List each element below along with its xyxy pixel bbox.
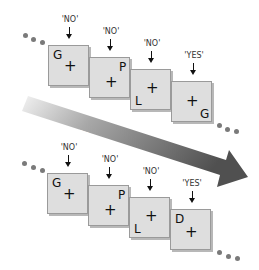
ellipsis-dot bbox=[31, 37, 36, 42]
stimulus-frame: G + bbox=[48, 45, 89, 86]
down-arrow-icon bbox=[192, 191, 193, 199]
response-label: 'NO' bbox=[143, 167, 160, 176]
ellipsis-dot bbox=[40, 40, 45, 45]
fixation-cross: + bbox=[185, 225, 198, 240]
response-label: 'NO' bbox=[103, 27, 120, 36]
stimulus-frame: P + bbox=[88, 185, 129, 226]
stimulus-frame: G + bbox=[47, 173, 88, 214]
stimulus-letter: G bbox=[200, 108, 209, 120]
ellipsis-dot bbox=[40, 168, 45, 173]
down-arrow-icon bbox=[109, 167, 110, 175]
fixation-cross: + bbox=[104, 203, 117, 218]
ellipsis-dot bbox=[31, 165, 36, 170]
stimulus-letter: P bbox=[119, 61, 126, 73]
ellipsis-dot bbox=[23, 33, 28, 38]
stimulus-letter: D bbox=[175, 213, 184, 225]
stimulus-frame: G + bbox=[171, 81, 212, 122]
down-arrow-icon bbox=[69, 27, 70, 35]
ellipsis-dot bbox=[217, 250, 222, 255]
fixation-cross: + bbox=[186, 94, 199, 109]
stimulus-letter: G bbox=[53, 49, 62, 61]
fixation-cross: + bbox=[105, 75, 118, 90]
response-label: 'NO' bbox=[61, 143, 78, 152]
down-arrow-icon bbox=[151, 51, 152, 59]
response-label: 'YES' bbox=[182, 179, 201, 188]
diagram-stage: Time 'NO' G + 'NO' P + 'NO' L + 'YES' G … bbox=[0, 0, 259, 270]
stimulus-letter: P bbox=[118, 189, 125, 201]
down-arrow-icon bbox=[68, 155, 69, 163]
response-label: 'YES' bbox=[184, 51, 203, 60]
response-label: 'NO' bbox=[102, 155, 119, 164]
ellipsis-dot bbox=[225, 127, 230, 132]
ellipsis-dot bbox=[226, 254, 231, 259]
ellipsis-dot bbox=[217, 123, 222, 128]
down-arrow-icon bbox=[193, 63, 194, 71]
fixation-cross: + bbox=[63, 187, 76, 202]
down-arrow-icon bbox=[150, 179, 151, 187]
ellipsis-dot bbox=[235, 256, 240, 261]
stimulus-frame: P + bbox=[89, 57, 130, 98]
fixation-cross: + bbox=[64, 59, 77, 74]
stimulus-frame: L + bbox=[129, 197, 170, 238]
stimulus-frame: L + bbox=[130, 69, 171, 110]
response-label: 'NO' bbox=[62, 15, 79, 24]
stimulus-letter: L bbox=[134, 223, 141, 235]
down-arrow-icon bbox=[110, 39, 111, 47]
fixation-cross: + bbox=[145, 209, 158, 224]
stimulus-letter: G bbox=[52, 177, 61, 189]
stimulus-letter: L bbox=[135, 95, 142, 107]
ellipsis-dot bbox=[22, 161, 27, 166]
fixation-cross: + bbox=[146, 81, 159, 96]
stimulus-frame: D + bbox=[170, 209, 211, 250]
response-label: 'NO' bbox=[144, 39, 161, 48]
ellipsis-dot bbox=[234, 129, 239, 134]
